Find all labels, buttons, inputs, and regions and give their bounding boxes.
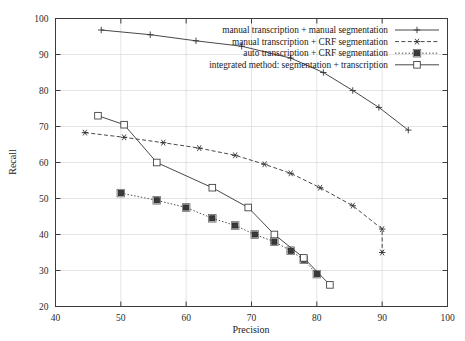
legend-label-3: integrated method: segmentation + transc… bbox=[209, 60, 388, 70]
data-point-marker bbox=[327, 282, 334, 289]
y-tick-label: 60 bbox=[39, 158, 49, 168]
y-tick-label: 20 bbox=[39, 302, 49, 312]
legend-label-1: manual transcription + CRF segmentation bbox=[232, 37, 388, 47]
data-point-marker bbox=[233, 223, 238, 228]
x-tick-label: 80 bbox=[312, 313, 322, 323]
x-tick-label: 50 bbox=[116, 313, 126, 323]
data-point-marker bbox=[184, 205, 189, 210]
x-tick-label: 100 bbox=[440, 313, 455, 323]
data-point-marker bbox=[121, 121, 128, 128]
data-point-marker bbox=[300, 255, 307, 262]
y-tick-label: 80 bbox=[39, 86, 49, 96]
x-axis-tick-labels: 405060708090100 bbox=[51, 313, 455, 323]
series-line-3 bbox=[98, 116, 330, 285]
series-1 bbox=[82, 130, 386, 256]
y-tick-label: 70 bbox=[39, 122, 49, 132]
x-tick-label: 90 bbox=[377, 313, 387, 323]
data-point-marker bbox=[95, 112, 102, 119]
legend-label-0: manual transcription + manual segmentati… bbox=[222, 25, 388, 35]
data-point-marker bbox=[118, 191, 123, 196]
legend-marker-3 bbox=[414, 62, 421, 69]
series-2 bbox=[117, 189, 321, 278]
y-axis-title: Recall bbox=[7, 149, 18, 175]
legend-label-2: auto transcription + CRF segmentation bbox=[243, 48, 388, 58]
data-point-marker bbox=[210, 216, 215, 221]
data-point-marker bbox=[314, 272, 319, 277]
data-point-marker bbox=[245, 204, 252, 211]
y-tick-label: 100 bbox=[34, 14, 49, 24]
data-point-marker bbox=[252, 232, 257, 237]
x-tick-label: 70 bbox=[247, 313, 257, 323]
data-point-marker bbox=[272, 239, 277, 244]
data-point-marker bbox=[271, 231, 278, 238]
data-point-marker bbox=[209, 184, 216, 191]
y-tick-label: 90 bbox=[39, 50, 49, 60]
x-axis-title: Precision bbox=[232, 324, 269, 335]
recall-precision-chart: 405060708090100 2030405060708090100 Prec… bbox=[0, 0, 465, 341]
series-3 bbox=[95, 112, 334, 288]
x-tick-label: 40 bbox=[51, 313, 61, 323]
y-tick-label: 50 bbox=[39, 194, 49, 204]
chart-canvas: 405060708090100 2030405060708090100 Prec… bbox=[0, 0, 465, 341]
x-tick-label: 60 bbox=[181, 313, 191, 323]
series-line-2 bbox=[121, 193, 317, 274]
data-point-marker bbox=[154, 198, 159, 203]
y-axis-tick-labels: 2030405060708090100 bbox=[34, 14, 49, 312]
data-point-marker bbox=[153, 159, 160, 166]
legend-marker-2 bbox=[414, 51, 419, 56]
y-tick-label: 40 bbox=[39, 230, 49, 240]
y-tick-label: 30 bbox=[39, 266, 49, 276]
chart-legend: manual transcription + manual segmentati… bbox=[209, 25, 439, 70]
